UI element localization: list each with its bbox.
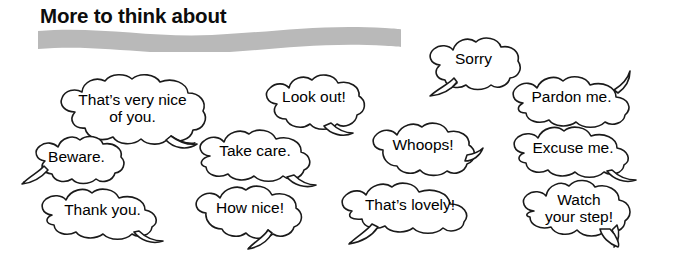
speech-bubble-thank-you: Thank you.	[35, 189, 170, 244]
speech-bubble-beware: Beware.	[24, 136, 129, 190]
page-title: More to think about	[40, 4, 226, 28]
speech-bubble-how-nice: How nice!	[190, 186, 310, 242]
speech-bubble-take-care: Take care.	[194, 130, 316, 185]
speech-bubble-excuse-me: Excuse me.	[508, 127, 638, 181]
worksheet-page: More to think about That’s very nice of …	[0, 0, 679, 258]
speech-bubble-look-out: Look out!	[259, 74, 369, 136]
speech-bubble-whoops: Whoops!	[367, 123, 479, 179]
speech-bubble-watch-your-step: Watch your step!	[518, 175, 640, 247]
speech-bubble-thats-lovely: That’s lovely!	[337, 183, 483, 239]
heading-band: More to think about	[0, 0, 679, 52]
speech-bubble-pardon-me: Pardon me.	[506, 76, 637, 131]
